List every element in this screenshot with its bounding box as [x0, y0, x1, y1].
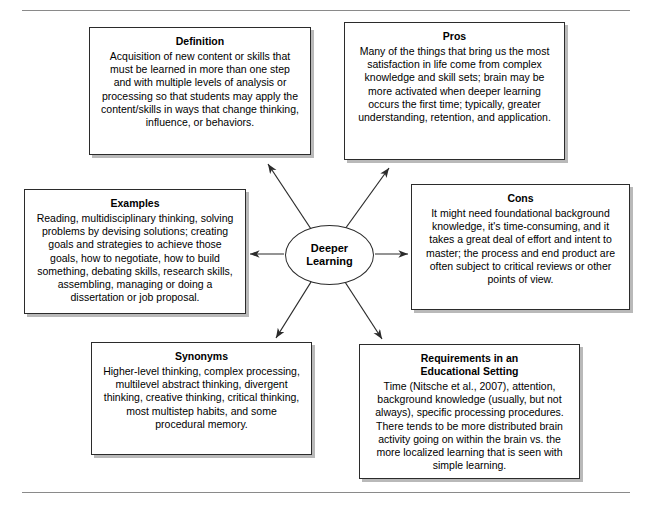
node-body-cons: It might need foundational background kn… — [421, 207, 620, 286]
node-title-requirements: Requirements in an Educational Setting — [369, 352, 570, 378]
figure-canvas: Definition Acquisition of new content or… — [0, 0, 654, 509]
node-box-examples: Examples Reading, multidisciplinary thin… — [24, 189, 246, 314]
arrow-to-requirements — [345, 282, 382, 339]
node-title-examples: Examples — [34, 197, 236, 210]
node-body-examples: Reading, multidisciplinary thinking, sol… — [34, 212, 236, 304]
center-node-deeper-learning: Deeper Learning — [285, 225, 374, 285]
horizontal-rule-bottom — [22, 492, 630, 493]
node-title-pros: Pros — [354, 30, 555, 43]
arrow-to-definition — [268, 164, 311, 229]
node-body-pros: Many of the things that bring us the mos… — [354, 45, 555, 124]
node-box-cons: Cons It might need foundational backgrou… — [411, 184, 630, 310]
horizontal-rule-top — [22, 10, 630, 11]
arrow-to-synonyms — [276, 282, 311, 338]
node-box-synonyms: Synonyms Higher-level thinking, complex … — [91, 342, 312, 455]
node-body-requirements: Time (Nitsche et al., 2007), attention, … — [369, 380, 570, 472]
arrow-to-pros — [345, 168, 389, 229]
node-title-definition: Definition — [99, 35, 301, 48]
node-box-pros: Pros Many of the things that bring us th… — [344, 22, 565, 160]
node-body-synonyms: Higher-level thinking, complex processin… — [101, 365, 302, 431]
node-box-definition: Definition Acquisition of new content or… — [89, 27, 311, 155]
node-body-definition: Acquisition of new content or skills tha… — [99, 50, 301, 129]
node-title-synonyms: Synonyms — [101, 350, 302, 363]
node-title-cons: Cons — [421, 192, 620, 205]
center-node-label: Deeper Learning — [306, 242, 352, 269]
node-box-requirements: Requirements in an Educational Setting T… — [359, 344, 580, 479]
